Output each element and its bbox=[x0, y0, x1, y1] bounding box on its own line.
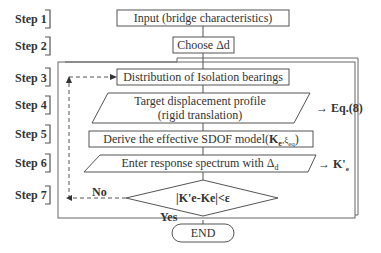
yes-label: Yes bbox=[160, 210, 177, 225]
sdof-text: Derive the effective SDOF model(Ke,ξeq) bbox=[89, 132, 313, 148]
no-label: No bbox=[92, 185, 107, 200]
response-spectrum-text: Enter response spectrum with Δd bbox=[92, 156, 308, 172]
step-6-label: Step 6 bbox=[15, 156, 47, 171]
input-text: Input (bridge characteristics) bbox=[117, 11, 289, 26]
step-4-label: Step 4 bbox=[15, 98, 47, 113]
ke-output: → K'e bbox=[318, 157, 349, 173]
step-5-label: Step 5 bbox=[15, 127, 47, 142]
end-text: END bbox=[172, 226, 234, 241]
step-7-label: Step 7 bbox=[15, 188, 47, 203]
step-1-label: Step 1 bbox=[15, 12, 47, 27]
convergence-condition: |K'e-Ke|<ε bbox=[153, 191, 253, 206]
step-3-label: Step 3 bbox=[15, 71, 47, 86]
distribution-text: Distribution of Isolation bearings bbox=[117, 70, 289, 85]
target-displacement-line1: Target displacement profile bbox=[100, 94, 300, 109]
eq8-output: → Eq.(8) bbox=[316, 101, 363, 116]
target-displacement-line2: (rigid translation) bbox=[100, 108, 300, 123]
choose-delta-text: Choose Δd bbox=[173, 38, 234, 53]
arrow-right-icon bbox=[110, 74, 117, 80]
step-2-label: Step 2 bbox=[15, 39, 47, 54]
